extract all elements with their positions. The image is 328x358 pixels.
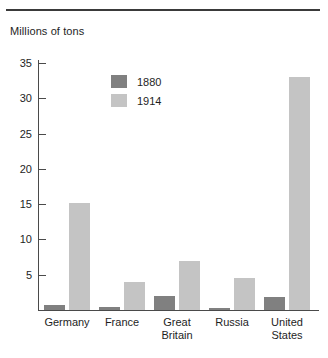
legend-item-1914: 1914 [111, 91, 161, 110]
y-tick-label-20: 20 [4, 164, 32, 174]
bar-germany-1880 [44, 305, 65, 310]
plot-area: 3530252015105 GermanyFranceGreat Britain… [0, 0, 328, 358]
y-tick-mark-35 [39, 63, 46, 64]
y-tick-mark-20 [39, 169, 46, 170]
bar-germany-1914 [69, 203, 90, 310]
bar-france-1914 [124, 282, 145, 310]
legend-label-1880: 1880 [137, 76, 161, 88]
x-axis-label-united-states: United States [254, 316, 320, 342]
bar-russia-1914 [234, 278, 255, 310]
x-axis-line [38, 310, 319, 311]
y-tick-label-10: 10 [4, 234, 32, 244]
legend-label-1914: 1914 [137, 95, 161, 107]
chart-figure: Millions of tons 3530252015105 GermanyFr… [0, 0, 328, 358]
y-tick-label-35: 35 [4, 58, 32, 68]
bar-united-states-1880 [264, 297, 285, 310]
y-tick-mark-25 [39, 134, 46, 135]
bar-russia-1880 [209, 308, 230, 310]
y-tick-mark-10 [39, 239, 46, 240]
y-tick-mark-30 [39, 98, 46, 99]
bar-great-britain-1914 [179, 261, 200, 310]
legend-swatch-1880 [111, 75, 127, 88]
legend-swatch-1914 [111, 94, 127, 107]
y-tick-label-15: 15 [4, 199, 32, 209]
bar-france-1880 [99, 307, 120, 310]
y-tick-mark-5 [39, 275, 46, 276]
y-tick-label-25: 25 [4, 129, 32, 139]
y-tick-label-5: 5 [4, 270, 32, 280]
legend-item-1880: 1880 [111, 72, 161, 91]
chart-legend: 1880 1914 [111, 72, 161, 110]
y-tick-mark-15 [39, 204, 46, 205]
bar-great-britain-1880 [154, 296, 175, 310]
y-tick-label-30: 30 [4, 93, 32, 103]
bar-united-states-1914 [289, 77, 310, 310]
